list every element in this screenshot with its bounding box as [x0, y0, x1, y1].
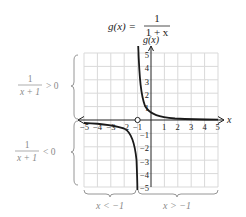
svg-text:g(x) =: g(x) =: [108, 20, 136, 33]
svg-text:−4: −4: [140, 170, 150, 180]
brace-left-interval: [84, 190, 136, 197]
svg-text:4: 4: [145, 63, 150, 73]
svg-text:1 + x: 1 + x: [146, 26, 169, 38]
svg-text:2: 2: [176, 122, 180, 132]
brace-right-interval: [138, 190, 218, 197]
svg-text:1: 1: [28, 74, 33, 84]
function-title: g(x) = 1 1 + x: [108, 12, 170, 38]
svg-text:3: 3: [145, 77, 149, 87]
svg-text:−5: −5: [140, 183, 149, 193]
bottom-braces: [84, 190, 218, 197]
svg-text:1: 1: [25, 140, 30, 150]
svg-text:x + 1: x + 1: [19, 87, 40, 97]
svg-text:3: 3: [189, 122, 193, 132]
svg-text:5: 5: [145, 50, 149, 60]
function-graph: −5 −4 −3 −2 −1 1 2 3 4 5 5 4 3 2 1 −1 −2…: [0, 0, 246, 217]
svg-text:> 0: > 0: [46, 81, 59, 91]
svg-text:−2: −2: [120, 122, 129, 132]
y-axis: [149, 46, 154, 187]
svg-text:−4: −4: [93, 122, 103, 132]
svg-text:1: 1: [145, 103, 149, 113]
svg-text:−1: −1: [140, 130, 149, 140]
interval-labels: x < −1 x > −1: [95, 200, 191, 211]
negative-region-label: 1 x + 1 < 0: [15, 140, 56, 163]
svg-text:−3: −3: [107, 122, 116, 132]
svg-text:2: 2: [145, 90, 149, 100]
right-interval-label: x > −1: [162, 200, 191, 211]
svg-text:−2: −2: [140, 143, 149, 153]
x-axis-label: x: [226, 114, 232, 125]
svg-text:−3: −3: [140, 157, 149, 167]
svg-text:< 0: < 0: [43, 147, 56, 157]
svg-text:5: 5: [216, 122, 220, 132]
positive-region-label: 1 x + 1 > 0: [18, 74, 59, 97]
left-interval-label: x < −1: [95, 200, 124, 211]
brace-positive: [71, 55, 78, 119]
left-braces: [71, 55, 78, 185]
svg-text:−5: −5: [80, 122, 89, 132]
svg-text:4: 4: [203, 122, 208, 132]
svg-text:1: 1: [162, 122, 166, 132]
svg-text:x + 1: x + 1: [16, 153, 37, 163]
brace-negative: [71, 121, 78, 185]
svg-text:1: 1: [154, 12, 160, 24]
x-tick-labels: −5 −4 −3 −2 −1 1 2 3 4 5: [80, 122, 220, 132]
